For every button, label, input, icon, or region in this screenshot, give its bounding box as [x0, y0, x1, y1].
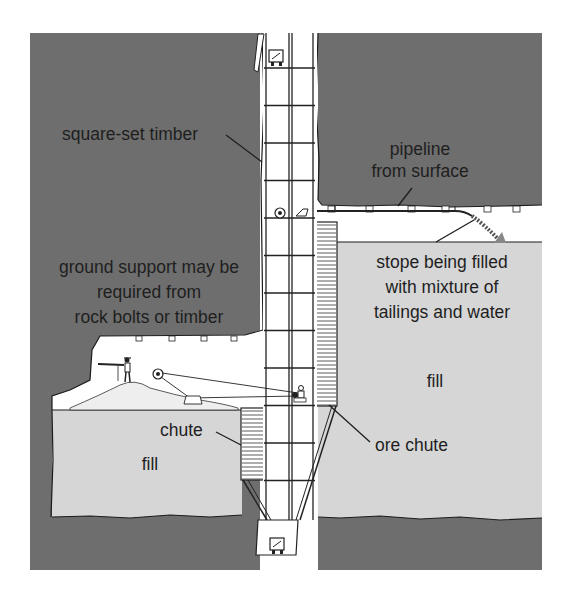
label-ground-support-1: ground support may be: [59, 257, 239, 277]
scraper-bucket: [184, 396, 202, 404]
label-pipeline-1: pipeline: [390, 139, 450, 159]
label-fill-right: fill: [427, 371, 444, 391]
label-stope-2: with mixture of: [385, 277, 499, 297]
label-stope-1: stope being filled: [376, 252, 507, 272]
chute: [241, 408, 265, 480]
label-stope-3: tailings and water: [374, 302, 510, 322]
label-square-set-timber: square-set timber: [62, 124, 198, 144]
square-set-timber: [263, 33, 317, 520]
label-ore-chute: ore chute: [375, 435, 448, 455]
label-ground-support-2: required from: [97, 282, 201, 302]
label-fill-left: fill: [142, 454, 159, 474]
mining-diagram: square-set timber pipeline from surface …: [0, 0, 570, 590]
label-pipeline-2: from surface: [371, 161, 468, 181]
label-chute: chute: [160, 420, 203, 440]
label-ground-support-3: rock bolts or timber: [75, 307, 224, 327]
